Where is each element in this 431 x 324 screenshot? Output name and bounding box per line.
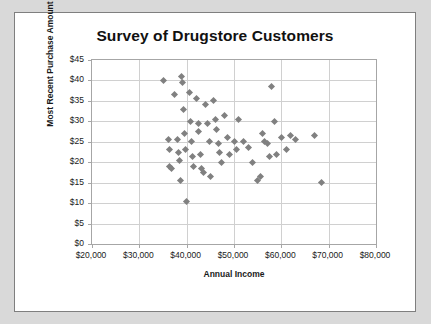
data-point — [202, 101, 209, 108]
chart-card: Survey of Drugstore Customers Most Recen… — [14, 12, 416, 312]
data-point — [200, 169, 207, 176]
data-point — [224, 134, 231, 141]
data-point — [190, 163, 197, 170]
data-point — [283, 146, 290, 153]
x-tickmark — [139, 244, 140, 248]
y-gridline — [92, 224, 376, 225]
x-tick-label: $80,000 — [345, 250, 405, 260]
data-point — [213, 126, 220, 133]
data-point — [240, 138, 247, 145]
y-tickmark — [88, 162, 92, 163]
data-point — [264, 140, 271, 147]
data-point — [207, 173, 214, 180]
data-point — [175, 148, 182, 155]
scatter-plot-area — [91, 59, 377, 245]
y-tickmark — [88, 203, 92, 204]
x-tickmark — [187, 244, 188, 248]
data-point — [249, 159, 256, 166]
y-gridline — [92, 101, 376, 102]
y-tick-label: $45 — [38, 54, 84, 64]
data-point — [245, 144, 252, 151]
x-tickmark — [329, 244, 330, 248]
data-point — [271, 118, 278, 125]
x-gridline — [281, 60, 282, 244]
x-tickmark — [281, 244, 282, 248]
y-tick-label: $20 — [38, 156, 84, 166]
data-point — [278, 134, 285, 141]
data-point — [218, 159, 225, 166]
y-gridline — [92, 203, 376, 204]
y-tick-label: $0 — [38, 238, 84, 248]
data-point — [197, 150, 204, 157]
y-gridline — [92, 121, 376, 122]
data-point — [273, 150, 280, 157]
y-tick-label: $30 — [38, 115, 84, 125]
data-point — [318, 179, 325, 186]
y-tick-label: $35 — [38, 95, 84, 105]
data-point — [187, 118, 194, 125]
y-tickmark — [88, 101, 92, 102]
y-tick-label: $40 — [38, 74, 84, 84]
y-tickmark — [88, 183, 92, 184]
x-axis-label: Annual Income — [91, 269, 377, 279]
y-tickmark — [88, 244, 92, 245]
y-tickmark — [88, 121, 92, 122]
data-point — [259, 130, 266, 137]
data-point — [226, 150, 233, 157]
x-gridline — [139, 60, 140, 244]
data-point — [159, 77, 166, 84]
y-gridline — [92, 162, 376, 163]
y-gridline — [92, 183, 376, 184]
data-point — [166, 146, 173, 153]
y-tick-label: $10 — [38, 197, 84, 207]
y-tick-label: $15 — [38, 177, 84, 187]
y-tickmark — [88, 60, 92, 61]
data-point — [189, 153, 196, 160]
data-point — [210, 97, 217, 104]
data-point — [221, 112, 228, 119]
data-point — [216, 148, 223, 155]
x-tickmark — [234, 244, 235, 248]
data-point — [206, 138, 213, 145]
y-tickmark — [88, 80, 92, 81]
data-point — [311, 132, 318, 139]
x-tickmark — [92, 244, 93, 248]
data-point — [168, 165, 175, 172]
data-point — [195, 128, 202, 135]
x-gridline — [187, 60, 188, 244]
y-tick-label: $5 — [38, 218, 84, 228]
data-point — [182, 146, 189, 153]
x-gridline — [329, 60, 330, 244]
data-point — [268, 83, 275, 90]
y-tickmark — [88, 224, 92, 225]
data-point — [230, 138, 237, 145]
chart-title: Survey of Drugstore Customers — [15, 27, 415, 45]
y-tick-label: $25 — [38, 136, 84, 146]
x-tickmark — [376, 244, 377, 248]
y-tickmark — [88, 142, 92, 143]
data-point — [188, 138, 195, 145]
data-point — [171, 91, 178, 98]
y-gridline — [92, 80, 376, 81]
